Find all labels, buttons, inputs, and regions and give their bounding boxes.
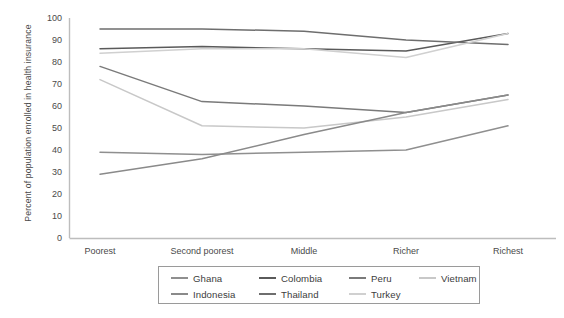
- legend-item-colombia[interactable]: Colombia: [259, 270, 322, 286]
- legend-item-turkey[interactable]: Turkey: [349, 286, 401, 302]
- series-lines: [100, 29, 508, 174]
- y-tick-label: 40: [52, 145, 62, 155]
- series-line-turkey: [100, 33, 508, 57]
- y-tick-label: 30: [52, 167, 62, 177]
- legend-label: Thailand: [281, 289, 319, 300]
- y-tick-label: 0: [57, 233, 62, 243]
- legend-item-thailand[interactable]: Thailand: [259, 286, 319, 302]
- line-chart: Percent of population enrolled in health…: [0, 0, 564, 318]
- legend-item-indonesia[interactable]: Indonesia: [171, 286, 235, 302]
- y-tick-label: 100: [47, 13, 62, 23]
- legend-label: Colombia: [281, 273, 322, 284]
- legend-label: Turkey: [371, 289, 401, 300]
- y-tick-label: 20: [52, 189, 62, 199]
- legend-swatch-turkey: [349, 293, 366, 295]
- x-tick-label: Richest: [493, 246, 524, 256]
- legend-label: Ghana: [193, 273, 222, 284]
- y-tick-label: 10: [52, 211, 62, 221]
- series-line-ghana: [100, 126, 508, 155]
- series-line-thailand: [100, 29, 508, 44]
- legend-swatch-vietnam: [419, 277, 436, 279]
- x-tick-label: Richer: [393, 246, 419, 256]
- y-tick-label: 80: [52, 57, 62, 67]
- x-tick-label: Poorest: [84, 246, 116, 256]
- y-axis-tick-labels: 1009080706050403020100: [47, 13, 62, 243]
- legend-row: GhanaColombiaPeruVietnam: [165, 270, 473, 286]
- legend-swatch-ghana: [171, 277, 188, 279]
- legend-swatch-indonesia: [171, 293, 188, 295]
- legend-item-peru[interactable]: Peru: [349, 270, 392, 286]
- x-tick-label: Second poorest: [170, 246, 234, 256]
- legend-label: Vietnam: [441, 273, 477, 284]
- legend-swatch-thailand: [259, 293, 276, 295]
- legend-label: Indonesia: [193, 289, 235, 300]
- legend-label: Peru: [371, 273, 392, 284]
- legend-row: IndonesiaThailandTurkey: [165, 286, 473, 302]
- y-tick-label: 50: [52, 123, 62, 133]
- legend-swatch-colombia: [259, 277, 276, 279]
- legend-swatch-peru: [349, 277, 366, 279]
- legend: GhanaColombiaPeruVietnamIndonesiaThailan…: [158, 266, 480, 304]
- plot-area: 1009080706050403020100 PoorestSecond poo…: [0, 0, 564, 266]
- y-tick-label: 70: [52, 79, 62, 89]
- legend-item-ghana[interactable]: Ghana: [171, 270, 222, 286]
- x-tick-label: Middle: [291, 246, 318, 256]
- y-tick-label: 90: [52, 35, 62, 45]
- y-tick-label: 60: [52, 101, 62, 111]
- x-axis-tick-labels: PoorestSecond poorestMiddleRicherRichest: [84, 246, 523, 256]
- legend-item-vietnam[interactable]: Vietnam: [419, 270, 477, 286]
